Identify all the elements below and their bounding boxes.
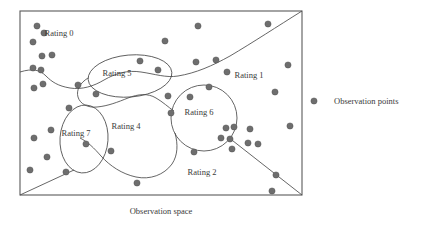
observation-point xyxy=(34,23,40,29)
observation-point xyxy=(44,154,50,160)
observation-point xyxy=(287,123,293,129)
region-label-rating-6: Rating 6 xyxy=(184,107,213,117)
region-label-rating-4: Rating 4 xyxy=(111,121,141,131)
legend-observation-dot xyxy=(311,98,317,104)
observation-point xyxy=(39,53,45,59)
observation-point xyxy=(255,141,261,147)
legend-label: Observation points xyxy=(334,96,398,106)
observation-point xyxy=(31,135,37,141)
observation-space-caption: Observation space xyxy=(130,206,193,216)
observation-point xyxy=(187,94,193,100)
observation-point xyxy=(193,59,199,65)
observation-point xyxy=(48,127,54,133)
observation-point xyxy=(155,67,161,73)
observation-point xyxy=(93,91,99,97)
observation-point xyxy=(245,140,251,146)
observation-point xyxy=(273,172,279,178)
region-label-rating-7: Rating 7 xyxy=(61,128,90,138)
observation-point xyxy=(63,169,69,175)
region-label-rating-5: Rating 5 xyxy=(102,68,131,78)
observation-point xyxy=(213,57,219,63)
rating-4-to-2-boundary xyxy=(80,133,177,178)
observation-point xyxy=(227,136,233,142)
observation-point xyxy=(66,105,72,111)
diagram-canvas: Rating 0Rating 5Rating 1Rating 6Rating 4… xyxy=(0,0,440,227)
observation-point xyxy=(206,84,212,90)
rating-6-circle xyxy=(171,85,237,151)
region-label-rating-2: Rating 2 xyxy=(187,167,216,177)
observation-point xyxy=(195,23,201,29)
observation-point xyxy=(218,135,224,141)
observation-point xyxy=(285,62,291,68)
observation-point xyxy=(30,39,36,45)
observation-point xyxy=(165,93,171,99)
observation-point xyxy=(38,67,44,73)
observation-space-figure: Rating 0Rating 5Rating 1Rating 6Rating 4… xyxy=(0,0,440,227)
observation-point xyxy=(265,21,271,27)
rating-6-to-corner-line xyxy=(228,137,302,195)
observation-point xyxy=(75,82,81,88)
observation-point xyxy=(224,69,230,75)
observation-point xyxy=(49,52,55,58)
observation-points-group xyxy=(27,21,293,194)
observation-point xyxy=(229,146,235,152)
observation-point xyxy=(134,180,140,186)
region-boundaries xyxy=(20,11,302,195)
rating-7-ellipse xyxy=(58,103,111,174)
observation-point xyxy=(27,167,33,173)
observation-space-frame xyxy=(20,11,302,195)
observation-point xyxy=(269,188,275,194)
region-label-rating-1: Rating 1 xyxy=(234,70,263,80)
observation-point xyxy=(137,58,143,64)
observation-point xyxy=(31,85,37,91)
observation-point xyxy=(162,38,168,44)
observation-point xyxy=(231,124,237,130)
observation-point xyxy=(272,89,278,95)
observation-point xyxy=(108,148,114,154)
observation-point xyxy=(223,125,229,131)
region-labels-group: Rating 0Rating 5Rating 1Rating 6Rating 4… xyxy=(44,28,263,177)
observation-point xyxy=(168,110,174,116)
observation-point xyxy=(30,65,36,71)
region-label-rating-0: Rating 0 xyxy=(44,28,73,38)
observation-point xyxy=(247,126,253,132)
observation-point xyxy=(191,149,197,155)
observation-point xyxy=(40,81,46,87)
observation-point xyxy=(83,141,89,147)
